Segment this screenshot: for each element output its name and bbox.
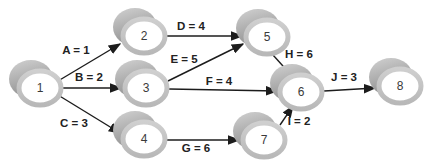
node-1: 1 <box>9 60 61 105</box>
edge-label-F: F = 4 <box>206 75 233 87</box>
network-diagram-canvas: A = 1 B = 2 C = 3 D = 4 E = 5 F = 4 G = … <box>0 0 431 164</box>
node-3: 3 <box>115 60 167 105</box>
edge-J-6-to-8: J = 3 <box>324 71 375 91</box>
node-3-label: 3 <box>143 81 150 95</box>
edge-label-E: E = 5 <box>170 53 198 65</box>
edge-D-2-to-5: D = 4 <box>167 20 242 36</box>
edge-label-H: H = 6 <box>285 48 313 60</box>
edge-F-3-to-6: F = 4 <box>169 75 277 91</box>
edge-label-C: C = 3 <box>60 117 88 129</box>
network-diagram: A = 1 B = 2 C = 3 D = 4 E = 5 F = 4 G = … <box>0 0 431 164</box>
node-6-label: 6 <box>298 85 305 99</box>
node-4-label: 4 <box>141 132 148 146</box>
edge-label-B: B = 2 <box>75 71 103 83</box>
edge-label-D: D = 4 <box>177 20 205 32</box>
node-6: 6 <box>270 64 322 109</box>
node-2: 2 <box>113 8 165 53</box>
node-2-label: 2 <box>141 29 148 43</box>
edge-label-G: G = 6 <box>182 142 210 154</box>
edge-label-J: J = 3 <box>331 71 357 83</box>
node-8-label: 8 <box>397 79 404 93</box>
node-4: 4 <box>113 111 165 156</box>
node-8: 8 <box>369 58 421 103</box>
node-1-label: 1 <box>37 81 44 95</box>
edge-line-J <box>324 88 375 91</box>
node-7: 7 <box>233 112 285 157</box>
edge-label-A: A = 1 <box>62 44 90 56</box>
node-5: 5 <box>236 9 288 54</box>
edge-line-F <box>169 89 277 91</box>
edge-label-I: I = 2 <box>288 115 311 127</box>
node-7-label: 7 <box>261 133 268 147</box>
node-5-label: 5 <box>264 30 271 44</box>
edge-G-4-to-7: G = 6 <box>167 140 239 154</box>
edge-C-1-to-4: C = 3 <box>58 95 120 133</box>
